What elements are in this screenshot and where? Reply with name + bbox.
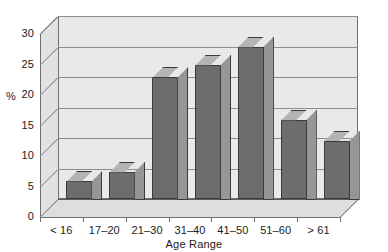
y-axis-tick-label: 5	[4, 180, 34, 192]
bar	[324, 141, 350, 199]
bar	[109, 172, 135, 199]
bar	[66, 181, 92, 199]
bar-side-face	[177, 67, 188, 200]
y-axis-tick-label: 15	[4, 119, 34, 131]
y-axis-tick-label: 25	[4, 58, 34, 70]
bar	[238, 47, 264, 200]
x-axis-title: Age Range	[0, 238, 388, 250]
x-axis-tick-mark	[211, 217, 212, 222]
bar-side-face	[220, 55, 231, 200]
y-axis-tick-label: 0	[4, 210, 34, 222]
gridline	[58, 16, 358, 17]
x-axis-tick-mark	[40, 217, 41, 222]
bar-side-face	[306, 110, 317, 200]
bar	[152, 77, 178, 199]
y-axis-tick-label: 10	[4, 149, 34, 161]
gridline	[58, 47, 358, 48]
x-axis-tick-mark	[126, 217, 127, 222]
bar-chart-figure: 051015202530 < 1617–2021–3031–4041–5051–…	[0, 0, 388, 252]
bar-side-face	[263, 37, 274, 201]
bar-side-face	[349, 131, 360, 200]
plot-area-floor	[40, 199, 358, 217]
x-axis-tick-mark	[83, 217, 84, 222]
y-axis-tick-label: 30	[4, 27, 34, 39]
x-axis-tick-mark	[169, 217, 170, 222]
x-axis-tick-mark	[340, 217, 341, 222]
x-axis-tick-mark	[297, 217, 298, 222]
floor-front-edge	[40, 217, 340, 218]
y-axis-title: %	[6, 90, 16, 102]
bar	[281, 120, 307, 199]
bar	[195, 65, 221, 199]
x-axis-tick-mark	[254, 217, 255, 222]
x-axis-tick-label: > 61	[291, 224, 347, 236]
